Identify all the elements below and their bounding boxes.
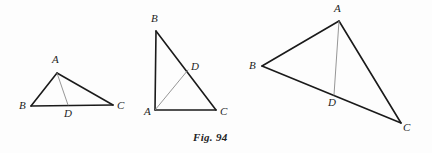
vertex-label-c-d1: C bbox=[117, 100, 124, 111]
cevian-AD bbox=[155, 70, 188, 110]
figure-caption: Fig. 94 bbox=[193, 131, 228, 143]
vertex-label-a-d1: A bbox=[52, 54, 59, 65]
triangle-side-CA bbox=[339, 21, 401, 123]
vertex-label-b-d2: B bbox=[151, 13, 158, 24]
cevian-AD bbox=[334, 21, 339, 95]
vertex-label-b-d3: B bbox=[249, 60, 256, 71]
acute-triangle-with-cevian bbox=[31, 73, 113, 106]
vertex-label-c-d2: C bbox=[220, 106, 227, 117]
diagram-layer bbox=[31, 21, 401, 123]
triangle-side-BC bbox=[262, 66, 401, 123]
figure-94-container: ABCDBDACABDC Fig. 94 bbox=[0, 0, 432, 153]
vertex-label-d-d3: D bbox=[328, 97, 336, 108]
vertex-label-a-d2: A bbox=[144, 106, 151, 117]
triangle-side-AB bbox=[31, 73, 57, 106]
vertex-label-c-d3: C bbox=[403, 122, 410, 133]
vertex-label-a-d3: A bbox=[334, 3, 341, 14]
triangle-side-CA bbox=[57, 73, 113, 105]
vertex-label-d-d1: D bbox=[64, 108, 72, 119]
vertex-label-d-d2: D bbox=[191, 61, 199, 72]
triangle-side-AB bbox=[262, 21, 339, 66]
vertex-label-b-d1: B bbox=[19, 100, 26, 111]
right-triangle-with-cevian bbox=[155, 31, 216, 110]
triangle-side-BC bbox=[31, 105, 113, 106]
triangle-side-AB bbox=[155, 31, 156, 110]
